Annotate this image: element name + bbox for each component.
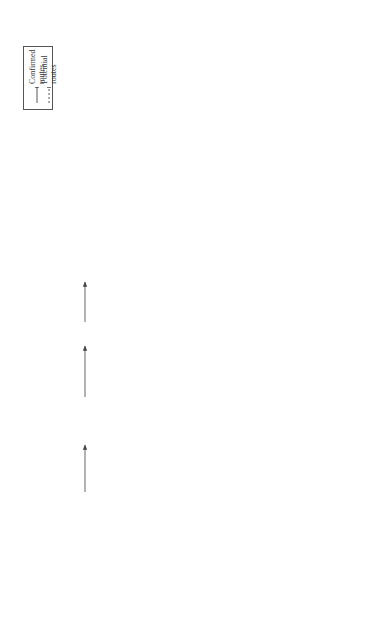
- legend: Confirmed routes Potential routes: [23, 46, 53, 110]
- route-arrows: [0, 0, 387, 622]
- legend-potential: Potential routes: [40, 47, 58, 103]
- dashed-arrow-icon: [46, 87, 52, 103]
- translocation-diagram: Confirmed routes Potential routes: [0, 0, 387, 622]
